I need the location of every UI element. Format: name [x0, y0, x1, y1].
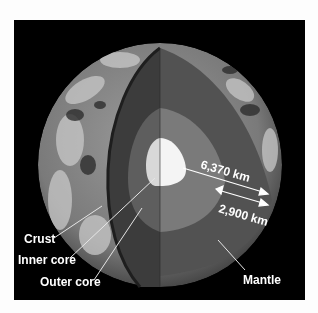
mantle-label: Mantle	[243, 273, 281, 287]
crust-label: Crust	[24, 232, 55, 246]
earth-diagram: 6,370 km 2,900 km Crust Inner core Outer…	[0, 0, 318, 313]
outer-core-label: Outer core	[40, 275, 101, 289]
inner-core-label: Inner core	[18, 253, 76, 267]
